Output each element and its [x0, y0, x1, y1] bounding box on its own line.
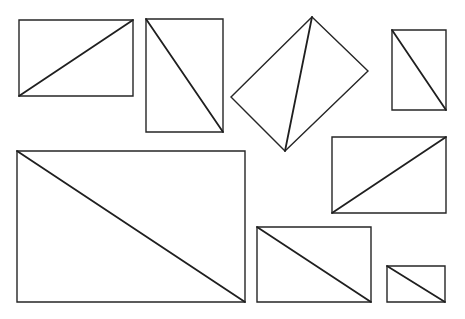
diagonal-line: [19, 20, 133, 96]
diagonal-line: [332, 137, 446, 213]
divided-rectangle: [17, 151, 245, 302]
diagonal-line: [387, 266, 445, 302]
diagonal-line: [285, 17, 312, 151]
divided-rectangle: [387, 266, 445, 302]
diagonal-line: [17, 151, 245, 302]
rotated-rectangle-outline: [231, 17, 368, 151]
divided-rotated-rectangle: [231, 17, 368, 151]
diagonal-line: [392, 30, 446, 110]
divided-rectangle: [392, 30, 446, 110]
shapes-group: [17, 17, 446, 302]
diagonal-line: [257, 227, 371, 302]
divided-rectangle: [257, 227, 371, 302]
divided-rectangle: [19, 20, 133, 96]
diagram-canvas: [0, 0, 465, 319]
diagonal-line: [146, 19, 223, 132]
divided-rectangle: [332, 137, 446, 213]
divided-rectangle: [146, 19, 223, 132]
